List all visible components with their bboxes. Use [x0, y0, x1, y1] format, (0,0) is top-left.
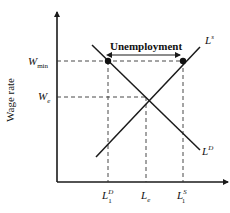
le-label: Le [140, 189, 150, 204]
supply-at-wmin-point [180, 58, 186, 64]
supply-curve-label: Ls [204, 33, 214, 46]
l1s-label: LS1 [176, 188, 187, 205]
guide-lines [57, 61, 183, 182]
w-e-label: We [38, 90, 50, 105]
w-min-label: Wmin [28, 55, 49, 70]
l1d-label: LD1 [101, 188, 113, 205]
y-axis-label: Wage rate [4, 78, 16, 122]
demand-at-wmin-point [105, 58, 111, 64]
demand-curve-label: LD [201, 144, 213, 157]
labor-market-diagram: Unemployment Ls LD Wmin We Wage rate LD1… [0, 0, 230, 213]
unemployment-label: Unemployment [110, 40, 182, 52]
